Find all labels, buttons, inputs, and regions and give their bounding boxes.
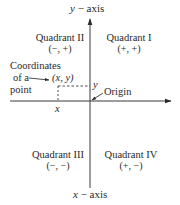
origin-arrow xyxy=(92,93,103,100)
origin-label: Origin xyxy=(104,86,131,97)
callout-line-3: point xyxy=(10,84,32,95)
point-x-value-label: x xyxy=(55,103,60,114)
quadrant-4-label: Quadrant IV xyxy=(101,149,161,160)
quadrant-2-label: Quadrant II xyxy=(30,32,90,43)
point-y-value-label: y xyxy=(93,79,98,90)
y-axis-label-rest: − axis xyxy=(75,2,104,14)
quadrant-2-signs: (−, +) xyxy=(30,43,90,54)
x-axis-label-rest: − axis xyxy=(78,188,107,200)
axes-graphic xyxy=(0,0,180,205)
quadrant-1-label: Quadrant I xyxy=(99,32,159,43)
quadrant-3-label: Quadrant III xyxy=(28,149,88,160)
callout-line-1: Coordinates xyxy=(10,60,61,71)
quadrant-1-signs: (+, +) xyxy=(99,43,159,54)
y-axis-label: y − axis xyxy=(70,3,104,14)
point-coordinates: (x, y) xyxy=(52,72,74,83)
quadrant-3-signs: (−, −) xyxy=(28,160,88,171)
cartesian-plane-diagram: y − axis Quadrant II (−, +) Quadrant I (… xyxy=(0,0,180,205)
x-axis-label: x − axis xyxy=(73,189,107,200)
callout-arrow xyxy=(29,78,49,80)
quadrant-4-signs: (+, −) xyxy=(101,160,161,171)
callout-line-2: of a xyxy=(13,72,29,83)
